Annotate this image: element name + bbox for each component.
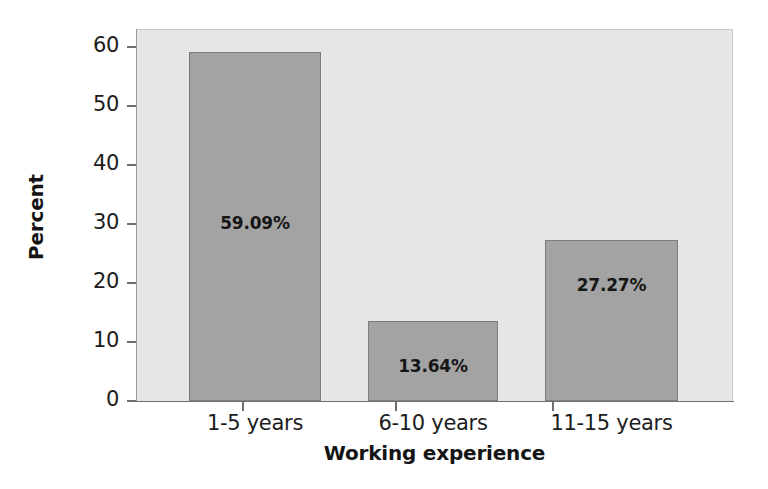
y-tick-mark xyxy=(127,223,136,225)
x-tick-mark xyxy=(552,402,554,411)
y-tick-mark xyxy=(127,105,136,107)
y-tick-mark xyxy=(127,400,136,402)
y-tick-label: 50 xyxy=(59,92,119,116)
y-tick-mark xyxy=(127,164,136,166)
y-tick-label: 30 xyxy=(59,210,119,234)
x-axis-title: Working experience xyxy=(136,441,733,465)
x-tick-mark xyxy=(242,402,244,411)
bar-value-label: 27.27% xyxy=(546,275,677,295)
y-tick-label: 10 xyxy=(59,328,119,352)
bar-value-label: 13.64% xyxy=(369,356,497,376)
y-tick-mark xyxy=(127,46,136,48)
y-axis-line xyxy=(136,29,137,402)
x-tick-label: 1-5 years xyxy=(155,411,355,435)
x-tick-mark xyxy=(395,402,397,411)
y-axis-title: Percent xyxy=(24,117,48,317)
x-tick-label: 11-15 years xyxy=(512,411,712,435)
bar-value-label: 59.09% xyxy=(190,213,320,233)
y-tick-label: 60 xyxy=(59,33,119,57)
y-tick-label: 0 xyxy=(59,387,119,411)
bar-1-5-years: 59.09% xyxy=(189,52,321,401)
x-axis-line xyxy=(128,401,734,402)
bar-6-10-years: 13.64% xyxy=(368,321,498,401)
y-tick-label: 20 xyxy=(59,269,119,293)
x-tick-label: 6-10 years xyxy=(333,411,533,435)
y-tick-mark xyxy=(127,282,136,284)
bar-chart: 59.09% 13.64% 27.27% 0102030405060 1-5 y… xyxy=(0,0,768,489)
bar-11-15-years: 27.27% xyxy=(545,240,678,401)
y-tick-mark xyxy=(127,341,136,343)
plot-area: 59.09% 13.64% 27.27% xyxy=(136,29,733,401)
y-tick-label: 40 xyxy=(59,151,119,175)
